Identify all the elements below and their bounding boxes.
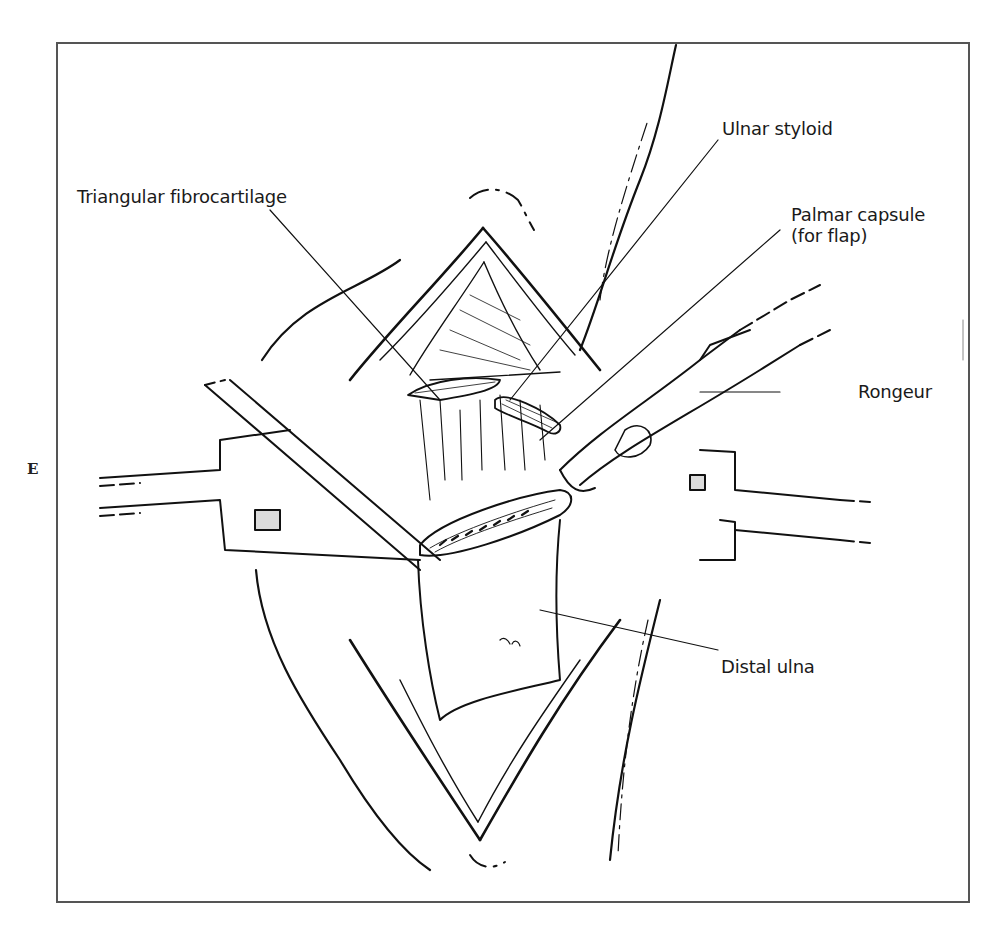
label-ulnar-styloid: Ulnar styloid (722, 119, 833, 139)
left-elevator (205, 380, 440, 570)
label-palmar-capsule-note: (for flap) (791, 226, 867, 246)
upper-tissue (410, 262, 560, 380)
left-retractor (100, 430, 420, 560)
incision-edges (350, 228, 620, 840)
label-rongeur: Rongeur (858, 382, 932, 402)
surgical-illustration (0, 0, 1002, 928)
right-retractor (690, 450, 870, 560)
leader-lines (270, 140, 780, 650)
triangular-fibrocartilage (408, 378, 500, 400)
ulna-shaft-lines (420, 395, 545, 500)
ulnar-styloid (495, 397, 560, 433)
rongeur (560, 285, 830, 491)
distal-ulna (418, 490, 571, 720)
label-distal-ulna: Distal ulna (721, 657, 815, 677)
label-triangular-fibrocartilage: Triangular fibrocartilage (77, 187, 287, 207)
label-palmar-capsule: Palmar capsule (791, 205, 925, 225)
